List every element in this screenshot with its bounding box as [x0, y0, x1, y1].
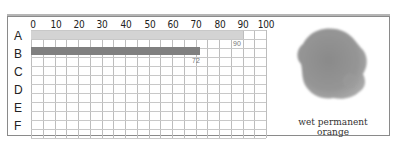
x-tick-80: 80 — [215, 19, 226, 30]
grid-hline — [31, 84, 266, 85]
swatch-caption: wet permanent orange — [282, 117, 384, 137]
grid-hline — [31, 111, 266, 112]
value-label-a: 90 — [233, 40, 241, 47]
row-label-b: B — [14, 47, 22, 61]
x-tick-30: 30 — [97, 19, 108, 30]
row-label-e: E — [14, 101, 22, 115]
grid-hline — [31, 129, 266, 130]
bar-a — [31, 31, 243, 39]
grid-hline — [31, 102, 266, 103]
x-tick-60: 60 — [168, 19, 179, 30]
x-tick-90: 90 — [238, 19, 249, 30]
x-tick-40: 40 — [121, 19, 132, 30]
row-label-d: D — [14, 83, 23, 97]
bar-b — [31, 47, 200, 55]
x-tick-10: 10 — [51, 19, 62, 30]
row-label-f: F — [14, 119, 21, 133]
grid-hline — [31, 39, 266, 40]
row-label-a: A — [14, 29, 22, 43]
grid-hline — [31, 75, 266, 76]
grid-hline — [31, 120, 266, 121]
value-label-b: 72 — [192, 57, 200, 64]
row-label-c: C — [14, 65, 23, 79]
grid-hline — [31, 57, 266, 58]
grid-hline — [31, 138, 266, 139]
x-tick-50: 50 — [145, 19, 156, 30]
paint-swatch-image — [287, 22, 375, 110]
x-tick-100: 100 — [258, 19, 274, 30]
x-tick-20: 20 — [74, 19, 85, 30]
grid-vline — [266, 30, 267, 138]
grid-hline — [31, 66, 266, 67]
x-tick-0: 0 — [30, 19, 35, 30]
grid-hline — [31, 93, 266, 94]
x-tick-70: 70 — [191, 19, 202, 30]
